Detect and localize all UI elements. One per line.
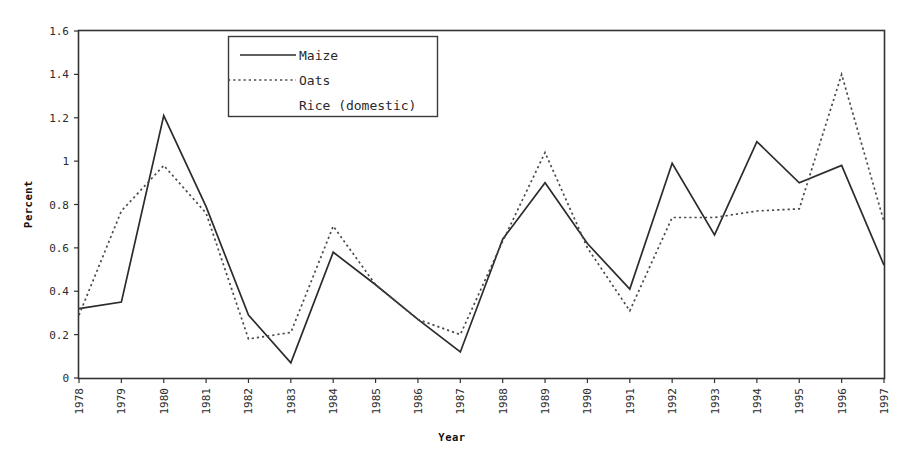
y-tick-label: 0.6 bbox=[49, 242, 69, 255]
y-tick-label: 1.2 bbox=[49, 112, 69, 125]
x-tick-label: 1996 bbox=[836, 388, 849, 415]
legend-label-rice-domestic: Rice (domestic) bbox=[299, 98, 416, 113]
y-tick-label: 0.4 bbox=[49, 285, 69, 298]
chart-figure: 00.20.40.60.811.21.41.6 1978197919801981… bbox=[0, 0, 911, 460]
x-tick-label: 1978 bbox=[73, 388, 86, 415]
x-tick-label: 1986 bbox=[412, 388, 425, 415]
y-tick-label: 0.2 bbox=[49, 329, 69, 342]
y-axis-tick-labels: 00.20.40.60.811.21.41.6 bbox=[49, 25, 69, 385]
x-tick-label: 1988 bbox=[497, 388, 510, 415]
y-axis-title: Percent bbox=[22, 180, 34, 228]
x-tick-label: 1992 bbox=[666, 388, 679, 415]
y-tick-label: 0.8 bbox=[49, 199, 69, 212]
x-tick-label: 1980 bbox=[158, 388, 171, 415]
y-tick-label: 1 bbox=[62, 155, 69, 168]
x-tick-label: 1995 bbox=[793, 388, 806, 415]
x-tick-label: 1982 bbox=[242, 388, 255, 415]
x-tick-label: 1989 bbox=[539, 388, 552, 415]
x-tick-label: 1997 bbox=[878, 388, 891, 415]
x-tick-label: 1981 bbox=[200, 388, 213, 415]
line-chart: 00.20.40.60.811.21.41.6 1978197919801981… bbox=[0, 0, 911, 460]
x-tick-label: 1987 bbox=[454, 388, 467, 415]
x-tick-label: 1993 bbox=[709, 388, 722, 415]
x-axis-title: Year bbox=[438, 431, 465, 443]
x-tick-label: 1990 bbox=[581, 388, 594, 415]
legend-label-maize: Maize bbox=[299, 48, 338, 63]
y-tick-label: 1.4 bbox=[49, 68, 69, 81]
x-tick-label: 1991 bbox=[624, 388, 637, 415]
x-tick-label: 1984 bbox=[327, 388, 340, 415]
y-tick-label: 1.6 bbox=[49, 25, 69, 38]
legend-label-oats: Oats bbox=[299, 73, 330, 88]
chart-legend: Maize Oats Rice (domestic) bbox=[228, 37, 438, 117]
x-tick-label: 1994 bbox=[751, 388, 764, 415]
y-tick-label: 0 bbox=[62, 372, 69, 385]
x-tick-label: 1979 bbox=[115, 388, 128, 415]
x-tick-label: 1985 bbox=[370, 388, 383, 415]
x-tick-label: 1983 bbox=[285, 388, 298, 415]
